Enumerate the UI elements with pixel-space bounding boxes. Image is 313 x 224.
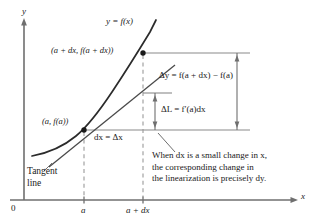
point-a-plus-dx bbox=[140, 50, 145, 55]
linearization-diagram: y x 0 a a + dx y = f(x) (a + dx, f(a + d… bbox=[0, 0, 313, 224]
y-axis-label: y bbox=[22, 6, 26, 16]
caption-line-3: the linearization is precisely dy. bbox=[152, 173, 267, 185]
point-a-f-a bbox=[81, 127, 86, 132]
caption-block: When dx is a small change in x, the corr… bbox=[152, 150, 267, 185]
tick-label-a: a bbox=[81, 205, 86, 215]
tangent-line-label-line1: Tangent bbox=[27, 166, 57, 177]
tick-label-a-plus-dx: a + dx bbox=[126, 205, 150, 215]
x-axis-arrowhead bbox=[291, 197, 299, 203]
x-axis-label: x bbox=[301, 191, 305, 201]
upper-point-label: (a + dx, f(a + dx)) bbox=[51, 46, 113, 56]
caption-line-1: When dx is a small change in x, bbox=[152, 150, 267, 162]
delta-y-label: Δy = f(a + dx) − f(a) bbox=[159, 70, 233, 80]
delta-L-label: ΔL = f′(a)dx bbox=[161, 104, 205, 114]
dx-delta-x-label: dx = Δx bbox=[94, 132, 123, 142]
diagram-canvas bbox=[0, 0, 313, 224]
y-axis-arrowhead bbox=[21, 18, 27, 26]
caption-line-2: the corresponding change in bbox=[152, 162, 267, 174]
delta-L-measure-arrow bbox=[153, 93, 158, 130]
delta-y-measure-arrow bbox=[235, 53, 240, 130]
curve-label: y = f(x) bbox=[106, 16, 133, 26]
tangent-line-label-line2: line bbox=[27, 178, 41, 189]
dashed-lines-group bbox=[84, 55, 143, 198]
tangent-point-label: (a, f(a)) bbox=[42, 117, 68, 127]
origin-label: 0 bbox=[11, 203, 16, 213]
